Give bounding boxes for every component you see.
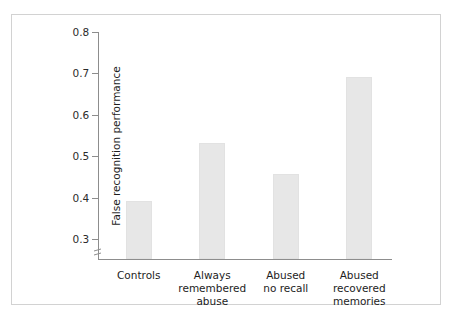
x-axis-line — [98, 259, 392, 260]
bar — [346, 77, 372, 259]
y-axis-tick-label: 0.8 — [73, 26, 89, 38]
y-axis-tick — [92, 73, 98, 74]
y-axis-title: False recognition performance — [110, 66, 122, 225]
y-axis-tick — [92, 156, 98, 157]
bar — [126, 201, 152, 259]
axis-break-icon — [93, 245, 105, 259]
plot-area: False recognition performance 0.30.40.50… — [98, 32, 392, 260]
y-axis-tick — [92, 32, 98, 33]
y-axis-tick-label: 0.3 — [73, 233, 89, 245]
y-axis-tick-label: 0.7 — [73, 67, 89, 79]
category-label: Abused recovered memories — [311, 269, 407, 308]
y-axis-tick — [92, 198, 98, 199]
y-axis-tick — [92, 239, 98, 240]
y-axis-line — [98, 32, 99, 260]
y-axis-tick — [92, 115, 98, 116]
bar — [199, 143, 225, 259]
y-axis-tick-label: 0.4 — [73, 192, 89, 204]
y-axis-tick-label: 0.5 — [73, 150, 89, 162]
y-axis-tick-label: 0.6 — [73, 109, 89, 121]
bar — [273, 174, 299, 259]
figure-frame: False recognition performance 0.30.40.50… — [11, 14, 441, 305]
